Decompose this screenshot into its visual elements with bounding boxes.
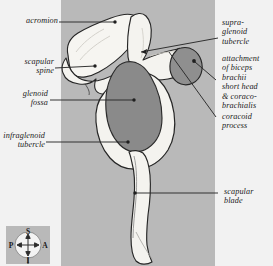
- dot-scapular-blade: [133, 191, 136, 194]
- label-acromion: acromion: [6, 16, 58, 25]
- label-attachment-line5: & coraco-: [222, 92, 257, 101]
- dot-acromion: [113, 20, 116, 23]
- spine-notch-detail: [85, 84, 89, 95]
- dot-scapular-spine: [93, 64, 96, 67]
- label-attachment-line2: of biceps: [222, 63, 252, 72]
- label-scapular-blade: scapular blade: [224, 187, 272, 206]
- dot-infraglenoid: [126, 140, 129, 143]
- label-attachment-line1: attachment: [222, 54, 259, 63]
- figure-scapula-lateral: acromion scapular spine glenoid fossa in…: [0, 0, 273, 266]
- label-coracoid-line2: process: [222, 121, 247, 130]
- label-attachment-line6: brachialis: [222, 101, 256, 110]
- label-scapular-blade-line2: blade: [224, 196, 243, 205]
- label-glenoid-fossa-line1: glenoid: [23, 89, 48, 98]
- orientation-compass: S I P A: [6, 226, 50, 264]
- compass-label-inferior: I: [27, 256, 30, 264]
- label-infraglenoid-line2: tubercle: [18, 140, 45, 149]
- label-coracoid-line1: coracoid: [222, 112, 252, 121]
- compass-label-anterior: A: [42, 241, 48, 250]
- label-infraglenoid-tubercle: infraglenoid tubercle: [1, 131, 45, 150]
- compass-label-superior: S: [26, 227, 30, 236]
- label-coracoid-process: coracoid process: [222, 112, 272, 131]
- label-supraglenoid-tubercle: supra- glenoid tubercle: [222, 18, 272, 46]
- coracoid-process-shape: [170, 48, 202, 85]
- label-scapular-spine-line1: scapular: [25, 57, 54, 66]
- label-biceps-attachment: attachment of biceps brachii short head …: [222, 54, 273, 110]
- label-scapular-spine-line2: spine: [36, 66, 54, 75]
- dot-coracoid-process: [192, 59, 196, 63]
- label-supraglenoid-line2: glenoid: [222, 27, 247, 36]
- label-supraglenoid-line3: tubercle: [222, 37, 249, 46]
- dot-glenoid-fossa: [132, 98, 135, 101]
- label-acromion-text: acromion: [26, 16, 58, 25]
- label-glenoid-fossa: glenoid fossa: [4, 89, 48, 108]
- label-scapular-spine: scapular spine: [4, 57, 54, 76]
- compass-label-posterior: P: [9, 241, 14, 250]
- label-attachment-line3: brachii: [222, 73, 246, 82]
- label-infraglenoid-line1: infraglenoid: [3, 131, 45, 140]
- label-scapular-blade-line1: scapular: [224, 187, 253, 196]
- label-glenoid-fossa-line2: fossa: [31, 98, 48, 107]
- label-attachment-line4: short head: [222, 82, 258, 91]
- label-supraglenoid-line1: supra-: [222, 18, 244, 27]
